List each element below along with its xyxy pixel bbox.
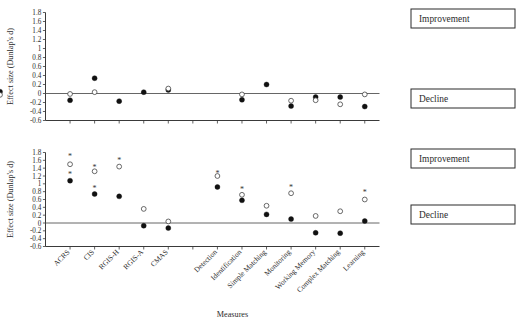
decline-annotation-2-label: Decline <box>419 210 448 220</box>
y-tick-label: 0.4 <box>32 204 41 212</box>
y-tick-label: 0 <box>38 220 42 228</box>
data-point-open <box>68 92 73 97</box>
data-point-open <box>141 207 146 212</box>
data-point-open <box>240 92 245 97</box>
data-point-filled <box>289 104 294 109</box>
data-point-open <box>362 197 367 202</box>
y-tick-label: 0.8 <box>32 54 41 62</box>
y-axis-title: Effect size (Dunlap's d) <box>6 28 15 105</box>
data-point-filled <box>289 217 294 222</box>
x-tick-label: Learning <box>341 247 366 272</box>
data-point-asterisk: * <box>289 183 293 192</box>
data-point-filled <box>362 219 367 224</box>
data-point-filled <box>338 231 343 236</box>
x-tick-label: RGIS-H <box>97 247 121 271</box>
data-point-open <box>362 92 367 97</box>
data-point-filled <box>264 212 269 217</box>
data-point-filled <box>141 90 146 95</box>
y-tick-label: 1.8 <box>32 9 41 17</box>
y-tick-label: -0.6 <box>30 243 42 251</box>
y-tick-label: 0 <box>38 90 42 98</box>
data-point-asterisk: * <box>93 163 97 172</box>
data-point-filled <box>338 95 343 100</box>
data-point-open <box>0 92 2 97</box>
scatter-figure: 1.81.61.41.210.80.60.40.20-0.2-0.4-0.6Ef… <box>0 0 523 326</box>
figure-container: 1.81.61.41.210.80.60.40.20-0.2-0.4-0.6Ef… <box>0 0 523 326</box>
data-point-filled <box>362 104 367 109</box>
y-tick-label: 1.4 <box>32 165 41 173</box>
y-tick-label: 0.2 <box>32 81 41 89</box>
y-tick-label: 0.6 <box>32 196 41 204</box>
data-point-filled <box>239 198 244 203</box>
data-point-filled <box>117 194 122 199</box>
data-point-filled <box>166 226 171 231</box>
y-tick-label: 1.4 <box>32 27 41 35</box>
y-tick-label: 0.4 <box>32 72 41 80</box>
data-point-filled <box>264 82 269 87</box>
data-point-filled <box>141 223 146 228</box>
y-tick-label: 1.6 <box>32 157 41 165</box>
x-tick-label: CMAS <box>149 248 170 269</box>
y-tick-label: -0.2 <box>30 99 42 107</box>
y-tick-label: 0.8 <box>32 188 41 196</box>
x-tick-label: CIS <box>82 248 97 263</box>
y-tick-label: 1.2 <box>32 36 41 44</box>
x-tick-label: Complex Matching <box>295 247 342 294</box>
panel-bottom: 1.81.61.41.210.80.60.40.20-0.2-0.4-0.6Ef… <box>6 149 380 251</box>
data-point-filled <box>313 230 318 235</box>
y-tick-label: 0.2 <box>32 212 41 220</box>
data-point-open <box>166 219 171 224</box>
data-point-filled <box>239 97 244 102</box>
data-point-asterisk: * <box>240 185 244 194</box>
data-point-filled <box>92 76 97 81</box>
data-point-filled <box>215 184 220 189</box>
x-tick-label: ACRS <box>51 248 71 268</box>
x-axis-labels: ACRSCISRGIS-HRGIS-ACMASDetectionIdentifi… <box>51 247 366 319</box>
data-point-filled <box>68 98 73 103</box>
improvement-annotation-label: Improvement <box>419 14 470 24</box>
data-point-open <box>92 90 97 95</box>
data-point-open <box>264 203 269 208</box>
y-tick-label: -0.2 <box>30 227 42 235</box>
y-tick-label: 1.2 <box>32 173 41 181</box>
y-tick-label: 1.8 <box>32 149 41 157</box>
x-axis-title: Measures <box>217 310 248 319</box>
y-tick-label: 1.6 <box>32 18 41 26</box>
y-tick-label: -0.4 <box>30 108 42 116</box>
improvement-annotation-2-label: Improvement <box>419 154 470 164</box>
data-point-open <box>289 98 294 103</box>
data-point-open <box>68 162 73 167</box>
panel-top: 1.81.61.41.210.80.60.40.20-0.2-0.4-0.6Ef… <box>0 9 380 125</box>
data-point-open <box>338 102 343 107</box>
data-point-open <box>338 209 343 214</box>
data-point-asterisk: * <box>215 169 219 178</box>
data-point-open <box>313 98 318 103</box>
data-point-open <box>313 214 318 219</box>
data-point-asterisk: * <box>68 152 72 161</box>
data-point-asterisk: * <box>363 188 367 197</box>
y-tick-label: -0.4 <box>30 235 42 243</box>
y-tick-label: 1 <box>38 45 42 53</box>
y-axis-title: Effect size (Dunlap's d) <box>6 161 15 238</box>
decline-annotation-label: Decline <box>419 94 448 104</box>
data-point-asterisk: * <box>93 184 97 193</box>
x-tick-label: RGIS-A <box>121 247 145 271</box>
y-tick-label: 1 <box>38 180 42 188</box>
y-tick-label: 0.6 <box>32 63 41 71</box>
annotation-boxes: ImprovementDeclineImprovementDecline <box>411 9 515 224</box>
y-tick-label: -0.6 <box>30 117 42 125</box>
data-point-filled <box>117 99 122 104</box>
data-point-asterisk: * <box>68 170 72 179</box>
data-point-open <box>166 86 171 91</box>
data-point-asterisk: * <box>117 156 121 165</box>
